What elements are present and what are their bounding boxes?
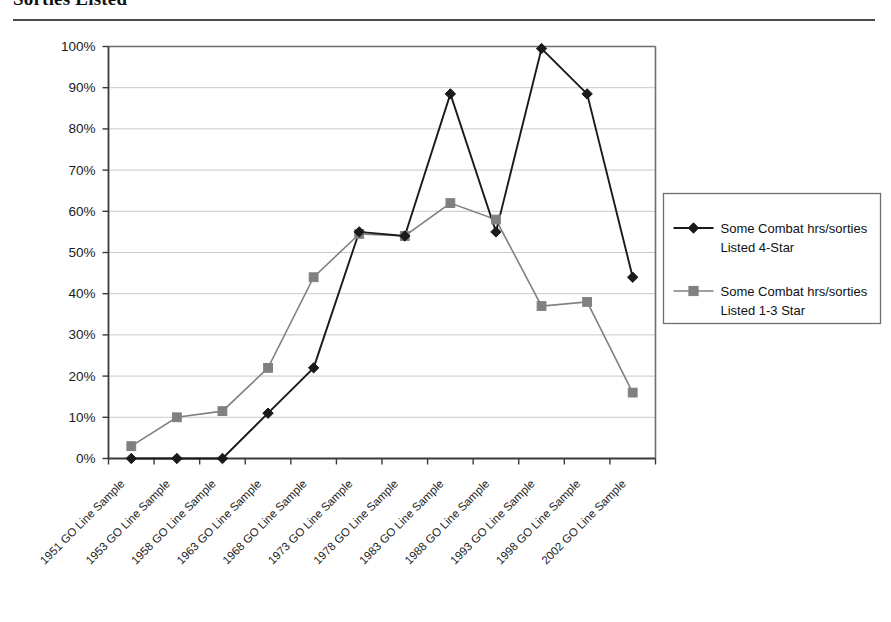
data-point-marker-square bbox=[218, 407, 227, 416]
data-point-marker-square bbox=[172, 413, 181, 422]
x-axis-category-label: 1963 GO Line Sample bbox=[174, 477, 263, 566]
x-axis-category-label: 2002 GO Line Sample bbox=[539, 477, 628, 566]
y-axis-tick-label: 30% bbox=[68, 327, 95, 342]
data-point-marker-diamond bbox=[491, 227, 501, 237]
y-axis-tick-label: 40% bbox=[68, 286, 95, 301]
data-point-marker-square bbox=[628, 388, 637, 397]
gridlines-group bbox=[109, 47, 656, 418]
y-axis-tick-label: 50% bbox=[68, 245, 95, 260]
data-point-marker-square bbox=[127, 442, 136, 451]
y-axis-tick-labels: 0%10%20%30%40%50%60%70%80%90%100% bbox=[61, 39, 96, 466]
data-point-marker-diamond bbox=[628, 272, 638, 282]
series-line-4-star bbox=[131, 49, 632, 459]
x-axis-category-label: 1993 GO Line Sample bbox=[448, 477, 537, 566]
data-point-marker-square bbox=[689, 286, 698, 295]
series-line-1-3-star bbox=[131, 203, 632, 446]
y-axis-tick-label: 10% bbox=[68, 410, 95, 425]
data-point-marker-square bbox=[264, 363, 273, 372]
x-axis-category-label: 1953 GO Line Sample bbox=[83, 477, 172, 566]
data-point-marker-diamond bbox=[126, 453, 136, 463]
x-axis-category-label: 1973 GO Line Sample bbox=[266, 477, 355, 566]
legend-label-line2: Listed 4-Star bbox=[721, 240, 795, 255]
data-point-marker-diamond bbox=[445, 89, 455, 99]
legend-label-line2: Listed 1-3 Star bbox=[721, 303, 806, 318]
x-axis-category-label: 1951 GO Line Sample bbox=[38, 477, 127, 566]
y-axis-tick-label: 90% bbox=[68, 80, 95, 95]
series-lines-group bbox=[131, 49, 632, 459]
data-point-marker-square bbox=[583, 298, 592, 307]
chart-figure: 0%10%20%30%40%50%60%70%80%90%100% 1951 G… bbox=[0, 0, 891, 622]
data-point-marker-square bbox=[492, 215, 501, 224]
line-chart-svg: 0%10%20%30%40%50%60%70%80%90%100% 1951 G… bbox=[0, 0, 891, 622]
category-labels: 1951 GO Line Sample1953 GO Line Sample19… bbox=[38, 477, 628, 566]
legend-label-line1: Some Combat hrs/sorties bbox=[721, 221, 868, 236]
data-point-marker-square bbox=[446, 199, 455, 208]
x-axis-category-label: 1998 GO Line Sample bbox=[494, 477, 583, 566]
y-axis-tick-label: 0% bbox=[76, 451, 96, 466]
x-axis-category-label: 1978 GO Line Sample bbox=[311, 477, 400, 566]
y-axis-tick-label: 70% bbox=[68, 163, 95, 178]
data-point-marker-square bbox=[309, 273, 318, 282]
x-axis-category-label: 1983 GO Line Sample bbox=[357, 477, 446, 566]
y-axis-tick-label: 60% bbox=[68, 204, 95, 219]
data-point-marker-diamond bbox=[172, 453, 182, 463]
data-point-marker-square bbox=[537, 302, 546, 311]
x-axis-category-label: 1958 GO Line Sample bbox=[129, 477, 218, 566]
legend-group: Some Combat hrs/sortiesListed 4-StarSome… bbox=[664, 194, 881, 324]
y-axis-tick-label: 20% bbox=[68, 369, 95, 384]
y-axis-tick-label: 100% bbox=[61, 39, 96, 54]
x-axis-category-label: 1988 GO Line Sample bbox=[402, 477, 491, 566]
x-axis-category-label: 1968 GO Line Sample bbox=[220, 477, 309, 566]
y-axis-tick-label: 80% bbox=[68, 121, 95, 136]
series-markers-group bbox=[126, 43, 638, 463]
legend-label-line1: Some Combat hrs/sorties bbox=[721, 284, 868, 299]
